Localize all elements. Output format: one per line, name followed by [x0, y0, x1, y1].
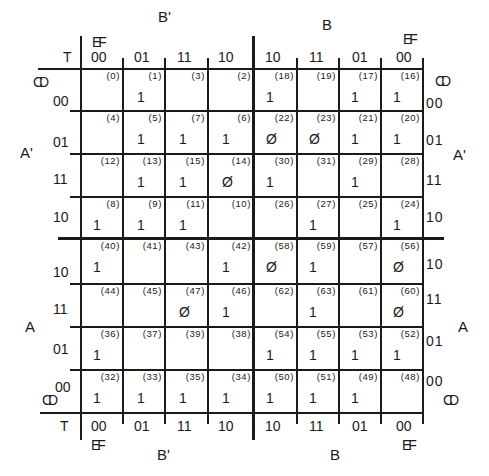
kmap-cell: (22)Ø	[254, 111, 297, 154]
cell-value: 1	[351, 391, 359, 405]
cell-minterm-index: (5)	[149, 113, 162, 123]
cell-value: 1	[179, 391, 187, 405]
cell-minterm-index: (33)	[143, 372, 162, 382]
cell-minterm-index: (15)	[186, 156, 205, 166]
kmap-cell: (3)	[165, 69, 208, 111]
kmap-cell: (47)Ø	[165, 284, 208, 327]
cell-value: Ø	[309, 132, 320, 146]
cell-minterm-index: (59)	[317, 241, 336, 251]
row-header-left: 10	[53, 210, 69, 224]
cell-value: 1	[222, 260, 230, 274]
cell-minterm-index: (46)	[232, 286, 251, 296]
cell-minterm-index: (17)	[359, 71, 378, 81]
cell-value: 1	[351, 348, 359, 362]
cell-value: Ø	[393, 260, 404, 274]
cell-minterm-index: (22)	[275, 113, 294, 123]
cell-minterm-index: (53)	[359, 329, 378, 339]
cell-value: 1	[393, 218, 401, 232]
cell-value: Ø	[222, 175, 233, 189]
kmap-cell: (50)1	[254, 370, 297, 413]
cell-minterm-index: (43)	[186, 241, 205, 251]
cell-value: Ø	[266, 132, 277, 146]
cell-minterm-index: (47)	[186, 286, 205, 296]
cell-value: 1	[222, 391, 230, 405]
cell-minterm-index: (26)	[275, 199, 294, 209]
kmap-cell: (37)	[123, 327, 165, 370]
kmap-cell: (11)1	[165, 197, 208, 239]
col-header-bottom: 10	[265, 419, 281, 433]
cell-value: 1	[309, 218, 317, 232]
cell-value: 1	[309, 391, 317, 405]
col-header-top: 11	[309, 50, 324, 64]
cell-minterm-index: (34)	[232, 372, 251, 382]
kmap-cell: (62)	[254, 284, 297, 327]
kmap-cell: (56)Ø	[381, 239, 423, 284]
kmap-cell: (8)1	[81, 197, 123, 239]
kmap-cell: (41)	[123, 239, 165, 284]
cell-value: 1	[351, 90, 359, 104]
var-label-b-prime-top: B'	[158, 10, 171, 24]
cell-value: 1	[93, 391, 101, 405]
kmap-cell: (39)	[165, 327, 208, 370]
cd-label-top-left: CD	[33, 75, 45, 89]
cell-minterm-index: (63)	[317, 286, 336, 296]
var-label-b-bottom: B	[330, 448, 340, 462]
cell-value: 1	[137, 132, 145, 146]
col-header-bottom: 01	[352, 419, 368, 433]
kmap-cell: (34)1	[208, 370, 254, 413]
cell-minterm-index: (12)	[101, 156, 120, 166]
kmap-cell: (46)1	[208, 284, 254, 327]
cell-minterm-index: (7)	[192, 113, 205, 123]
kmap-cell: (24)1	[381, 197, 423, 239]
cell-minterm-index: (20)	[401, 113, 420, 123]
kmap-cell: (14)Ø	[208, 154, 254, 197]
cell-value: 1	[179, 132, 187, 146]
cell-minterm-index: (14)	[232, 156, 251, 166]
kmap-cell: (30)1	[254, 154, 297, 197]
row-header-left: 11	[53, 302, 68, 316]
kmap-cell: (45)	[123, 284, 165, 327]
cell-value: 1	[309, 305, 317, 319]
cell-value: 1	[393, 348, 401, 362]
kmap-cell: (40)1	[81, 239, 123, 284]
kmap-cell: (17)1	[339, 69, 381, 111]
row-header-right: 01	[426, 133, 444, 147]
cell-minterm-index: (52)	[401, 329, 420, 339]
cell-minterm-index: (54)	[275, 329, 294, 339]
cell-value: Ø	[266, 260, 277, 274]
cell-value: 1	[137, 218, 145, 232]
row-header-right: 11	[426, 292, 443, 306]
cell-value: 1	[266, 348, 274, 362]
kmap-cell: (49)1	[339, 370, 381, 413]
cell-minterm-index: (36)	[101, 329, 120, 339]
kmap-cell: (19)	[297, 69, 339, 111]
var-label-a-left: A	[25, 320, 35, 334]
kmap-cell: (21)1	[339, 111, 381, 154]
cell-minterm-index: (49)	[359, 372, 378, 382]
var-label-a-prime-right: A'	[453, 148, 466, 162]
cell-minterm-index: (8)	[107, 199, 120, 209]
row-header-right: 00	[426, 96, 444, 110]
cell-minterm-index: (40)	[101, 241, 120, 251]
cell-value: 1	[222, 305, 230, 319]
cell-minterm-index: (3)	[192, 71, 205, 81]
kmap-cell: (0)	[81, 69, 123, 111]
cell-minterm-index: (31)	[317, 156, 336, 166]
kmap-cell: (27)1	[297, 197, 339, 239]
cell-minterm-index: (32)	[101, 372, 120, 382]
cell-minterm-index: (62)	[275, 286, 294, 296]
kmap-cell: (42)1	[208, 239, 254, 284]
cell-minterm-index: (13)	[143, 156, 162, 166]
col-header-bottom: 00	[396, 419, 412, 433]
kmap-cell: (18)1	[254, 69, 297, 111]
row-header-right: 10	[426, 257, 444, 271]
cell-minterm-index: (21)	[359, 113, 378, 123]
cell-value: 1	[351, 132, 359, 146]
kmap-cell: (59)1	[297, 239, 339, 284]
kmap-cell: (20)1	[381, 111, 423, 154]
kmap-cell: (4)	[81, 111, 123, 154]
col-header-top: 01	[134, 50, 150, 64]
kmap-cell: (32)1	[81, 370, 123, 413]
cell-minterm-index: (55)	[317, 329, 336, 339]
kmap-cell: (13)1	[123, 154, 165, 197]
